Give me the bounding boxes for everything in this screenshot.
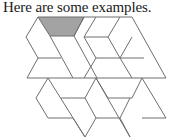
bottom-tiling (36, 78, 166, 137)
tiling-figure (0, 0, 171, 137)
shaded-trapezoid (38, 17, 84, 36)
top-tiling (26, 17, 166, 78)
